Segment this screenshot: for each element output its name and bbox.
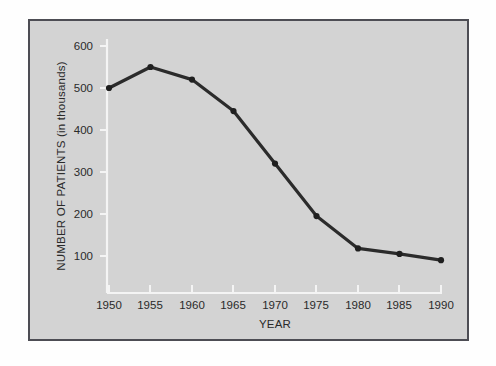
y-tick-label: 400	[74, 124, 93, 136]
figure-root: 600 500 400 300 200 100	[0, 0, 496, 366]
y-tick-label: 500	[74, 82, 93, 94]
y-tick-label: 200	[74, 208, 93, 220]
x-axis-title: YEAR	[259, 318, 291, 330]
x-tick-marks	[109, 285, 441, 293]
data-point	[189, 77, 195, 83]
y-axis-title: NUMBER OF PATIENTS (in thousands)	[55, 61, 67, 270]
line-chart: 600 500 400 300 200 100	[30, 21, 471, 343]
data-point	[396, 251, 402, 257]
x-tick-label: 1985	[386, 299, 412, 311]
x-tick-label: 1950	[96, 299, 122, 311]
chart-frame: 600 500 400 300 200 100	[28, 19, 469, 341]
y-tick-label: 600	[74, 40, 93, 52]
data-point	[272, 161, 278, 167]
x-tick-label: 1990	[428, 299, 454, 311]
x-tick-labels: 1950 1955 1960 1965 1970 1975 1980 1985 …	[96, 299, 454, 311]
y-tick-labels: 600 500 400 300 200 100	[74, 40, 93, 262]
data-point	[438, 257, 444, 263]
y-tick-label: 300	[74, 166, 93, 178]
plot-area: 600 500 400 300 200 100	[30, 21, 467, 339]
data-point	[313, 213, 319, 219]
x-tick-label: 1965	[220, 299, 246, 311]
x-tick-label: 1955	[137, 299, 163, 311]
x-tick-label: 1960	[179, 299, 205, 311]
data-point	[147, 64, 153, 70]
data-point	[230, 108, 236, 114]
x-tick-label: 1980	[345, 299, 371, 311]
x-tick-label: 1975	[303, 299, 329, 311]
data-point	[355, 245, 361, 251]
x-tick-label: 1970	[262, 299, 288, 311]
series-markers	[106, 64, 444, 263]
y-tick-label: 100	[74, 250, 93, 262]
data-point	[106, 85, 112, 91]
